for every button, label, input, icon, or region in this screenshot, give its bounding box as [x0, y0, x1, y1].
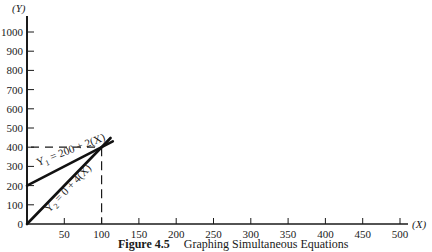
- y-axis-label: (Y): [12, 2, 26, 15]
- x-axis-label: (X): [412, 218, 426, 231]
- y-tick-label: 1000: [1, 26, 24, 38]
- y-tick-label: 400: [7, 141, 24, 153]
- caption-text: Graphing Simultaneous Equations: [184, 237, 349, 251]
- x-tick-label: 500: [392, 228, 409, 240]
- y-tick-label: 500: [7, 122, 24, 134]
- y-tick-label: 200: [7, 180, 24, 192]
- x-tick-label: 450: [354, 228, 371, 240]
- x-tick-label: 50: [59, 228, 71, 240]
- y-tick-label: 600: [7, 103, 24, 115]
- equation-label-y2: Y2 = 0 + 4(X): [42, 161, 96, 216]
- chart: 0100200300400500600700800900100050100150…: [0, 0, 432, 252]
- y-tick-label: 900: [7, 45, 24, 57]
- y-tick-label: 700: [7, 84, 24, 96]
- figure-caption: Figure 4.5Graphing Simultaneous Equation…: [118, 237, 348, 252]
- y-tick-label: 100: [7, 199, 24, 211]
- ticks: 0100200300400500600700800900100050100150…: [1, 26, 409, 240]
- x-tick-label: 100: [93, 228, 110, 240]
- figure-number: Figure 4.5: [118, 237, 170, 251]
- y-tick-label: 300: [7, 160, 24, 172]
- axes: [27, 16, 408, 224]
- y-tick-label: 0: [18, 218, 24, 230]
- y-tick-label: 800: [7, 64, 24, 76]
